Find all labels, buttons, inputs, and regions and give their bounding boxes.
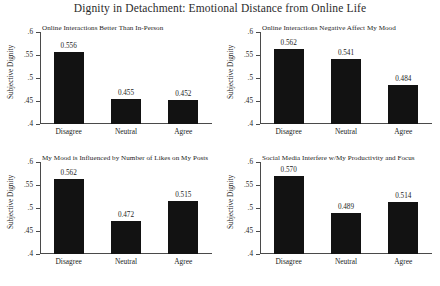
bar <box>331 59 361 124</box>
x-axis-tick-label: Agree <box>174 257 192 266</box>
bar-value-label: 0.570 <box>281 166 297 174</box>
y-axis-tick-label: .6 <box>28 158 33 166</box>
bar-value-label: 0.472 <box>118 211 134 219</box>
y-axis-tick-label: .4 <box>28 250 33 258</box>
y-axis-tick: .4 <box>36 124 40 125</box>
bar-slot: 0.541Neutral <box>317 32 374 124</box>
chart-panel: Online Interactions Negative Affect My M… <box>220 20 440 150</box>
panel-title: Online Interactions Negative Affect My M… <box>262 24 396 32</box>
x-axis-tick-label: Disagree <box>276 257 302 266</box>
panel-title: Online Interactions Better Than In-Perso… <box>42 24 163 32</box>
bar-value-label: 0.484 <box>395 75 411 83</box>
bar-slot: 0.515Agree <box>155 162 212 254</box>
x-axis-tick-label: Disagree <box>56 127 82 136</box>
y-axis-tick-label: .4 <box>248 120 253 128</box>
y-axis-tick-label: .5 <box>28 204 33 212</box>
y-axis-label: Subjective Dignity <box>7 164 15 240</box>
bar-slot: 0.489Neutral <box>317 162 374 254</box>
bar-value-label: 0.515 <box>175 191 191 199</box>
x-axis-tick-label: Agree <box>394 257 412 266</box>
y-axis-tick: .4 <box>256 124 260 125</box>
bar <box>111 99 141 124</box>
y-axis-tick-label: .55 <box>244 181 253 189</box>
bar-slot: 0.562Disagree <box>260 32 317 124</box>
bar-slot: 0.562Disagree <box>40 162 97 254</box>
bar <box>274 176 304 254</box>
bar-value-label: 0.489 <box>338 203 354 211</box>
panel-title: My Mood is Influenced by Number of Likes… <box>42 154 208 162</box>
y-axis-tick-label: .5 <box>248 204 253 212</box>
y-axis-tick-label: .55 <box>24 181 33 189</box>
y-axis-label: Subjective Dignity <box>7 34 15 110</box>
bar <box>331 213 361 254</box>
x-axis-tick-label: Neutral <box>335 257 357 266</box>
bar-value-label: 0.514 <box>395 192 411 200</box>
bar-slot: 0.570Disagree <box>260 162 317 254</box>
chart-panel: My Mood is Influenced by Number of Likes… <box>0 150 220 280</box>
y-axis-tick-label: .45 <box>24 227 33 235</box>
bar-value-label: 0.556 <box>61 42 77 50</box>
y-axis-tick-label: .6 <box>28 28 33 36</box>
bar-value-label: 0.562 <box>281 39 297 47</box>
y-axis-tick-label: .5 <box>28 74 33 82</box>
bar-slot: 0.484Agree <box>375 32 432 124</box>
y-axis-tick: .4 <box>256 254 260 255</box>
chart-panel: Online Interactions Better Than In-Perso… <box>0 20 220 150</box>
bar-slot: 0.472Neutral <box>97 162 154 254</box>
panel-title: Social Media Interfere w/My Productivity… <box>262 154 415 162</box>
bar <box>54 179 84 254</box>
plot-area: .4.45.5.55.60.556Disagree0.455Neutral0.4… <box>40 32 212 124</box>
x-axis-tick-label: Neutral <box>335 127 357 136</box>
y-axis-tick-label: .45 <box>24 97 33 105</box>
y-axis-tick-label: .55 <box>24 51 33 59</box>
chart-title: Dignity in Detachment: Emotional Distanc… <box>0 2 440 14</box>
x-axis-tick-label: Disagree <box>56 257 82 266</box>
y-axis-label: Subjective Dignity <box>227 164 235 240</box>
y-axis-tick-label: .45 <box>244 97 253 105</box>
plot-area: .4.45.5.55.60.562Disagree0.541Neutral0.4… <box>260 32 432 124</box>
bar-value-label: 0.562 <box>61 169 77 177</box>
y-axis-tick-label: .6 <box>248 158 253 166</box>
bar-slot: 0.514Agree <box>375 162 432 254</box>
chart-panel: Social Media Interfere w/My Productivity… <box>220 150 440 280</box>
x-axis-tick-label: Agree <box>174 127 192 136</box>
bar-group: 0.562Disagree0.541Neutral0.484Agree <box>260 32 432 124</box>
bar-value-label: 0.455 <box>118 89 134 97</box>
bar-group: 0.556Disagree0.455Neutral0.452Agree <box>40 32 212 124</box>
bar <box>168 100 198 124</box>
y-axis-label: Subjective Dignity <box>227 34 235 110</box>
y-axis-tick-label: .6 <box>248 28 253 36</box>
bar-slot: 0.452Agree <box>155 32 212 124</box>
bar-value-label: 0.452 <box>175 90 191 98</box>
bar-slot: 0.455Neutral <box>97 32 154 124</box>
bar-group: 0.570Disagree0.489Neutral0.514Agree <box>260 162 432 254</box>
bar <box>54 52 84 124</box>
y-axis-tick-label: .5 <box>248 74 253 82</box>
bar <box>388 85 418 124</box>
bar-slot: 0.556Disagree <box>40 32 97 124</box>
chart-figure: Dignity in Detachment: Emotional Distanc… <box>0 0 440 286</box>
plot-area: .4.45.5.55.60.562Disagree0.472Neutral0.5… <box>40 162 212 254</box>
y-axis-tick-label: .45 <box>244 227 253 235</box>
x-axis-tick-label: Agree <box>394 127 412 136</box>
bar-value-label: 0.541 <box>338 49 354 57</box>
x-axis-tick-label: Neutral <box>115 257 137 266</box>
plot-area: .4.45.5.55.60.570Disagree0.489Neutral0.5… <box>260 162 432 254</box>
bar <box>168 201 198 254</box>
bar <box>388 202 418 254</box>
x-axis-tick-label: Neutral <box>115 127 137 136</box>
bar <box>111 221 141 254</box>
y-axis-tick-label: .4 <box>28 120 33 128</box>
y-axis-tick-label: .55 <box>244 51 253 59</box>
x-axis-tick-label: Disagree <box>276 127 302 136</box>
y-axis-tick: .4 <box>36 254 40 255</box>
y-axis-tick-label: .4 <box>248 250 253 258</box>
bar-group: 0.562Disagree0.472Neutral0.515Agree <box>40 162 212 254</box>
bar <box>274 49 304 124</box>
